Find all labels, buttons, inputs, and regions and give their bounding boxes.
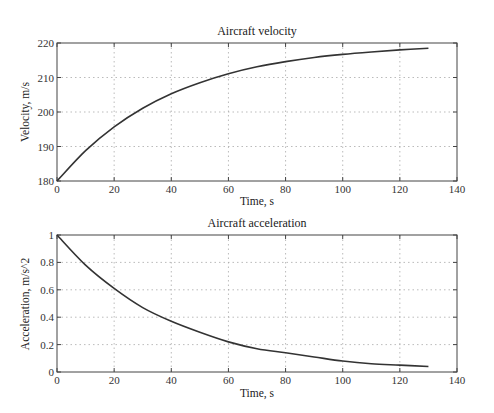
- velocity-x-tick-label: 60: [223, 183, 235, 195]
- acceleration-y-tick-label: 0.4: [40, 311, 54, 323]
- acceleration-axes-frame: [57, 235, 457, 372]
- velocity-x-tick-label: 20: [109, 183, 121, 195]
- acceleration-x-tick-label: 80: [280, 374, 292, 386]
- acceleration-y-tick-label: 0.2: [40, 339, 54, 351]
- velocity-x-tick-label: 0: [54, 183, 60, 195]
- acceleration-x-tick-label: 20: [109, 374, 121, 386]
- velocity-plot-title: Aircraft velocity: [217, 24, 297, 38]
- acceleration-plot: Aircraft acceleration Time, s Accelerati…: [19, 216, 466, 400]
- velocity-x-tick-label: 100: [334, 183, 351, 195]
- velocity-y-tick-label: 220: [38, 37, 55, 49]
- acceleration-series-line: [57, 235, 428, 367]
- velocity-plot: Aircraft velocity Time, s Velocity, m/s …: [19, 24, 466, 208]
- acceleration-x-tick-label: 100: [334, 374, 351, 386]
- velocity-x-tick-label: 40: [166, 183, 178, 195]
- acceleration-y-tick-label: 0.8: [40, 256, 54, 268]
- velocity-y-axis-label: Velocity, m/s: [19, 82, 32, 142]
- acceleration-x-tick-label: 40: [166, 374, 178, 386]
- acceleration-y-axis-label: Acceleration, m/s^2: [19, 258, 32, 351]
- velocity-x-tick-label: 80: [280, 183, 292, 195]
- velocity-y-tick-label: 200: [38, 106, 55, 118]
- acceleration-x-tick-label: 0: [54, 374, 60, 386]
- figure: Aircraft velocity Time, s Velocity, m/s …: [0, 0, 494, 413]
- acceleration-y-tick-label: 0: [49, 366, 55, 378]
- acceleration-x-tick-label: 120: [392, 374, 409, 386]
- velocity-y-tick-label: 190: [38, 141, 55, 153]
- velocity-x-tick-label: 140: [449, 183, 466, 195]
- acceleration-x-axis-label: Time, s: [240, 387, 275, 400]
- velocity-series-line: [57, 48, 428, 181]
- velocity-y-tick-label: 180: [38, 175, 55, 187]
- velocity-y-tick-label: 210: [38, 72, 55, 84]
- acceleration-plot-title: Aircraft acceleration: [208, 216, 307, 230]
- acceleration-x-tick-label: 60: [223, 374, 235, 386]
- acceleration-y-tick-label: 1: [49, 229, 55, 241]
- velocity-x-tick-label: 120: [392, 183, 409, 195]
- acceleration-x-tick-label: 140: [449, 374, 466, 386]
- acceleration-y-tick-label: 0.6: [40, 284, 54, 296]
- velocity-x-axis-label: Time, s: [240, 195, 275, 208]
